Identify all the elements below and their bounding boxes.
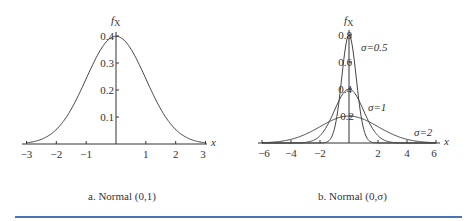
y-tick-label: 0.1 <box>100 111 114 123</box>
divider-rule <box>15 216 462 218</box>
y-tick-label: 0.2 <box>100 84 114 96</box>
x-tick-label: −6 <box>258 147 270 159</box>
label-sigma-1: σ=1 <box>368 101 386 113</box>
caption-left: a. Normal (0,1) <box>88 190 156 202</box>
x-tick-label: 6 <box>431 147 437 159</box>
x-axis-label: x <box>210 136 216 148</box>
x-tick-label: −1 <box>80 148 92 160</box>
x-tick-label: −2 <box>50 148 62 160</box>
x-axis-label: x <box>443 135 449 147</box>
x-tick-label: 4 <box>404 147 410 159</box>
y-axis-label: fX <box>344 14 354 28</box>
x-tick-label: −2 <box>314 147 326 159</box>
x-tick-label: −4 <box>285 147 297 159</box>
x-tick-label: 1 <box>143 148 149 160</box>
y-tick-label: 0.4 <box>100 30 114 42</box>
label-sigma-2: σ=2 <box>414 126 433 138</box>
y-tick-label: 0.4 <box>338 83 352 95</box>
y-axis-label: fX <box>111 14 121 28</box>
label-sigma-0.5: σ=0.5 <box>361 41 388 53</box>
figure: −3 −2 −1 1 2 3 0.1 0.2 0.3 0.4 fX x <box>0 0 470 221</box>
y-tick-label: 0.6 <box>338 56 352 68</box>
x-tick-label: 3 <box>200 148 206 160</box>
y-tick-label: 0.2 <box>340 110 354 122</box>
x-tick-label: 2 <box>173 148 179 160</box>
y-tick-label: 0.8 <box>338 29 352 41</box>
x-tick-label: 2 <box>375 147 381 159</box>
caption-right: b. Normal (0,σ) <box>318 190 387 202</box>
y-tick-label: 0.3 <box>100 57 114 69</box>
chart-right: −6 −4 −2 2 4 6 0.2 0.4 0.6 0.8 fX x σ=0.… <box>258 14 449 159</box>
chart-left: −3 −2 −1 1 2 3 0.1 0.2 0.3 0.4 fX x <box>21 14 216 160</box>
x-tick-label: −3 <box>21 148 33 160</box>
